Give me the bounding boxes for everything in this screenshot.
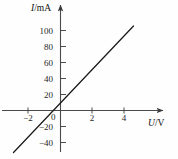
iv-characteristic-figure: 100 80 60 40 20 −20 −40 0 −2 2 4 I/mA U/… [0,0,178,159]
x-axis-symbol: U [148,118,155,128]
y-tick-label-60: 60 [30,59,53,68]
y-axis-unit: /mA [34,3,51,13]
y-tick-label-20: 20 [30,91,53,100]
y-axis-title: I/mA [31,3,51,13]
y-axis [61,5,67,152]
x-tick-label--2: −2 [23,114,33,123]
y-tick-label-80: 80 [30,43,53,52]
x-tick-label-4: 4 [122,114,127,123]
x-tick-label-2: 2 [90,114,95,123]
y-tick-label-100: 100 [30,27,53,36]
origin-label: 0 [51,113,56,122]
y-tick-label--40: −40 [28,139,53,148]
x-axis-title: U/V [148,118,164,128]
plot-canvas [0,0,178,159]
x-axis-unit: /V [155,118,165,128]
y-tick-label--20: −20 [28,123,53,132]
y-tick-label-40: 40 [30,75,53,84]
